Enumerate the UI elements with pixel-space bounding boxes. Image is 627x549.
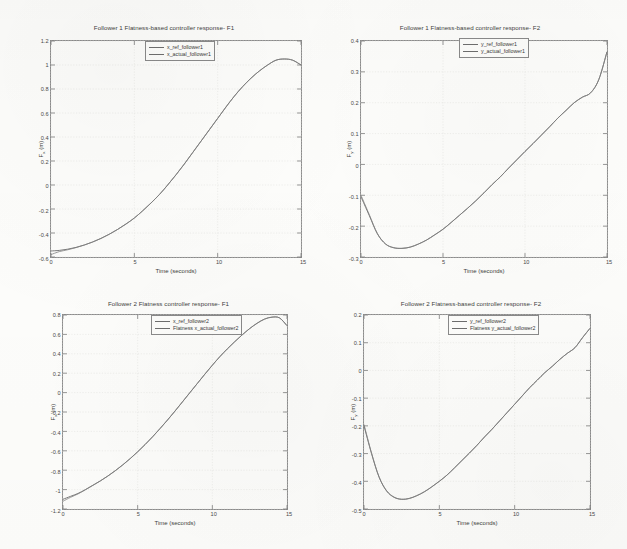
x-tick-label: 15: [300, 259, 306, 265]
curve-layer: [361, 41, 607, 257]
legend-line-icon: [149, 47, 164, 48]
x-axis-label: Time (seconds): [62, 520, 288, 526]
data-series-line: [51, 59, 301, 251]
subplot-follower1-f2: Follower 1 Flatness-based controller res…: [320, 24, 620, 279]
y-tick-label: -0.1: [349, 194, 359, 200]
legend-line-icon: [452, 321, 467, 322]
y-tick-label: 0: [355, 163, 358, 169]
x-axis-label: Time (seconds): [360, 268, 608, 274]
x-tick-label: 10: [216, 259, 222, 265]
legend-label: y_ref_follower2: [470, 318, 506, 324]
y-tick-label: -0.4: [352, 480, 362, 486]
gridlines: [364, 315, 590, 509]
gridlines: [51, 41, 301, 257]
legend-item: y_ref_follower1: [463, 41, 525, 48]
y-tick-label: -0.2: [352, 424, 362, 430]
x-tick-label: 15: [286, 511, 292, 517]
axes-area: Fx (m) -0.6-0.4-0.200.20.40.60.811.20510…: [50, 40, 302, 258]
legend-item: Flatness y_actual_follower2: [452, 325, 535, 332]
y-tick-label: 0: [45, 183, 48, 189]
x-tick-label: 10: [513, 511, 519, 517]
legend-label: x_ref_follower2: [173, 318, 209, 324]
legend-item: x_ref_follower1: [149, 44, 211, 51]
y-tick-label: -0.3: [349, 256, 359, 262]
legend: y_ref_follower1 y_actual_follower1: [459, 38, 529, 58]
legend-item: x_ref_follower2: [155, 318, 238, 325]
axes-area: Fy (m) -0.3-0.2-0.100.10.20.30.4051015: [360, 40, 608, 258]
legend-line-icon: [155, 321, 170, 322]
series-paths: [364, 328, 590, 499]
y-tick-label: 0.2: [354, 312, 362, 318]
subplot-follower2-f2: Follower 2 Flatness-based controller res…: [326, 300, 616, 545]
y-tick-label: 0.2: [53, 371, 61, 377]
y-tick-label: 0: [57, 390, 60, 396]
data-series-line: [364, 328, 590, 499]
y-tick-label: 0.4: [41, 135, 49, 141]
figure-page: Follower 1 Flatness-based controller res…: [0, 0, 627, 549]
y-axis-label: Fy (m): [346, 119, 354, 179]
y-tick-label: 0.4: [351, 38, 359, 44]
legend-label: y_ref_follower1: [481, 41, 517, 47]
data-series-line: [63, 317, 287, 501]
y-tick-label: 0.1: [351, 131, 359, 137]
x-axis-label: Time (seconds): [363, 520, 591, 526]
legend-label: x_ref_follower1: [167, 44, 203, 50]
y-tick-label: -0.4: [51, 430, 61, 436]
y-tick-label: 0.2: [41, 159, 49, 165]
subplot-follower2-f1: Follower 2 Flatness controller response-…: [26, 300, 311, 545]
y-tick-label: -1.2: [51, 508, 61, 514]
y-tick-label: 0.8: [41, 86, 49, 92]
y-tick-label: -0.5: [352, 508, 362, 514]
x-tick-label: 0: [61, 511, 64, 517]
x-tick-label: 10: [523, 259, 529, 265]
legend-item: y_ref_follower2: [452, 318, 535, 325]
x-tick-label: 0: [359, 259, 362, 265]
y-tick-label: 1: [45, 62, 48, 68]
y-tick-label: 0.1: [354, 340, 362, 346]
x-tick-label: 15: [606, 259, 612, 265]
plot-title: Follower 1 Flatness-based controller res…: [320, 24, 620, 31]
y-tick-label: 0.4: [53, 351, 61, 357]
x-tick-label: 5: [442, 259, 445, 265]
legend-line-icon: [155, 328, 170, 329]
series-paths: [361, 52, 607, 249]
y-tick-label: -0.6: [39, 256, 49, 262]
axes-area: Fx (m) -1.2-1-0.8-0.6-0.4-0.200.20.40.60…: [62, 314, 288, 510]
y-tick-label: -1: [56, 488, 61, 494]
y-axis-label: Fx (m): [38, 119, 46, 179]
x-tick-label: 0: [49, 259, 52, 265]
gridlines: [63, 315, 287, 509]
legend-item: Flatness x_actual_follower2: [155, 325, 238, 332]
y-tick-label: -0.2: [349, 225, 359, 231]
tick-marks: [361, 41, 607, 257]
series-paths: [51, 59, 301, 255]
data-series-line: [364, 328, 590, 499]
y-tick-label: 0: [358, 368, 361, 374]
tick-marks: [51, 41, 301, 257]
y-tick-label: 0.6: [41, 111, 49, 117]
x-tick-label: 5: [438, 511, 441, 517]
curve-layer: [364, 315, 590, 509]
data-series-line: [63, 317, 287, 499]
y-tick-label: -0.1: [352, 396, 362, 402]
y-tick-label: -0.6: [51, 449, 61, 455]
plot-title: Follower 2 Flatness-based controller res…: [326, 300, 616, 307]
legend: y_ref_follower2 Flatness y_actual_follow…: [448, 315, 539, 335]
plot-title: Follower 2 Flatness controller response-…: [26, 300, 311, 307]
legend-line-icon: [463, 44, 478, 45]
axes-area: Fy (m) -0.5-0.4-0.3-0.2-0.100.10.2051015: [363, 314, 591, 510]
legend-line-icon: [463, 51, 478, 52]
legend: x_ref_follower2 Flatness x_actual_follow…: [151, 315, 242, 335]
x-tick-label: 5: [133, 259, 136, 265]
series-paths: [63, 317, 287, 501]
legend-line-icon: [149, 54, 164, 55]
subplot-follower1-f1: Follower 1 Flatness-based controller res…: [14, 24, 314, 279]
legend-line-icon: [452, 328, 467, 329]
data-series-line: [361, 52, 607, 249]
curve-layer: [63, 315, 287, 509]
x-tick-label: 0: [362, 511, 365, 517]
legend-label: y_actual_follower1: [481, 48, 525, 54]
y-tick-label: 0.2: [351, 100, 359, 106]
y-tick-label: -0.3: [352, 452, 362, 458]
y-tick-label: -0.8: [51, 469, 61, 475]
